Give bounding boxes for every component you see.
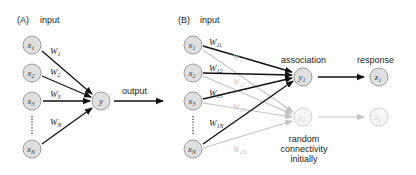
- association-label: association: [281, 55, 326, 65]
- panel-b: (B) input W11 W12 W13 W1N W21 W22 W23 W2…: [178, 15, 394, 164]
- association-node-y2: y2: [294, 108, 312, 126]
- weight-label-faint: W2N: [233, 145, 248, 155]
- weight-label: W3: [50, 89, 61, 100]
- panel-a-label: (A): [17, 15, 29, 25]
- panel-b-input-label: input: [200, 15, 220, 25]
- association-node-y1: y1: [294, 68, 312, 86]
- svg-text:connectivity: connectivity: [280, 144, 328, 154]
- edge-w23: [203, 103, 292, 117]
- input-node-x1: x1: [23, 36, 41, 54]
- input-node-xn: xN: [184, 140, 202, 158]
- weight-label: W1N: [209, 118, 225, 129]
- input-node-x1: x1: [184, 36, 202, 54]
- weight-label: W11: [209, 37, 222, 48]
- input-node-x3: x3: [23, 92, 41, 110]
- svg-text:random: random: [289, 134, 320, 144]
- response-node-z2: z2: [370, 108, 388, 126]
- response-label: response: [357, 55, 394, 65]
- weight-label-faint: W22: [233, 78, 246, 88]
- weight-label-faint: W23: [233, 103, 246, 113]
- weight-label-faint: W21: [233, 53, 246, 63]
- input-node-xn: xN: [23, 140, 41, 158]
- input-node-x3: x3: [184, 92, 202, 110]
- svg-text:initially: initially: [290, 154, 318, 164]
- panel-a-input-label: input: [40, 15, 60, 25]
- weight-label: W12: [209, 63, 223, 74]
- perceptron-diagram: (A) input W1 W2 W3 WN x1 x2 x3 xN: [0, 0, 416, 175]
- input-node-x2: x2: [184, 64, 202, 82]
- weight-label: W13: [209, 88, 223, 99]
- weight-label: W2: [50, 67, 61, 78]
- panel-b-label: (B): [178, 15, 190, 25]
- input-node-x2: x2: [23, 64, 41, 82]
- weight-label: W1: [50, 46, 61, 57]
- response-node-z1: z1: [370, 68, 388, 86]
- output-node-y: y: [92, 92, 110, 110]
- output-label: output: [122, 86, 148, 96]
- weight-label: WN: [50, 117, 63, 128]
- panel-a: (A) input W1 W2 W3 WN x1 x2 x3 xN: [17, 15, 163, 158]
- random-connectivity-note: random connectivity initially: [280, 134, 328, 164]
- svg-text:y: y: [98, 96, 103, 106]
